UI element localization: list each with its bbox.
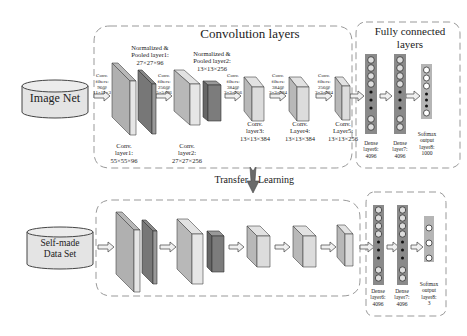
bottom-conv-layer4-block (293, 226, 316, 267)
transfer-label: Transfer (206, 174, 248, 186)
arrow-icon (321, 242, 336, 252)
image-net-label: Image Net (22, 92, 88, 106)
bottom-softmax-layer8-label: Softmaxoutputlayer8:3 (415, 281, 443, 306)
conv-layer2-block (174, 70, 200, 125)
conv-filter-label-4: Conv.filters:384@3×3×384 (266, 73, 290, 96)
conv-filter-label-1: Conv.filters:96@11×11×3 (90, 73, 114, 96)
conv-layer3-block (244, 77, 264, 121)
arrow-icon (275, 242, 290, 252)
bottom-dense-layer6-bar (373, 205, 384, 285)
softmax-layer8-label: Softmaxoutputlayer8:1000 (413, 131, 441, 156)
fc-title-line1: Fully connected (360, 25, 460, 38)
conv-filter-label-2: Conv.filters:256@5×5×96 (152, 73, 176, 96)
conv-layer1-block (112, 63, 136, 135)
conv-layer2-label: Conv.layer2:27×27×256 (164, 142, 210, 164)
bottom-dense-layer7-bar (397, 205, 408, 285)
bottom-pooled-layer1-block (142, 220, 157, 284)
conv-layer4-label: Conv.Layer4:13×13×384 (277, 120, 323, 142)
dense-layer6-label: Denselayer6:4096 (360, 140, 382, 159)
bottom-conv-layer1-block (116, 212, 140, 292)
arrow-icon (360, 242, 374, 252)
fc-section-title: Fully connected layers (360, 25, 460, 50)
arrow-icon (160, 242, 176, 252)
bottom-conv-layer2-block (177, 219, 203, 284)
pooled-layer2-block (203, 81, 221, 121)
conv-layer1-label: Conv.layer1:55×55×96 (102, 142, 146, 164)
bottom-softmax-layer8-bar (424, 216, 434, 262)
pooled-layer1-label: Normalized &Pooled layer1:27×27×96 (122, 44, 178, 66)
bottom-conv-layer3-block (247, 226, 270, 267)
arrow-icon (229, 242, 244, 252)
bottom-conv-layer5-block (337, 225, 353, 266)
conv-filter-label-5: Conv.filters:256@3×3×384 (312, 73, 336, 96)
conv-layer3-label: Conv.layer3:13×13×384 (232, 120, 278, 142)
conv-filter-label-3: Conv.filters:384@3×3×256 (221, 73, 245, 96)
dense-layer6-bar (365, 54, 377, 134)
conv-layer4-block (289, 77, 309, 121)
bottom-pooled-layer2-block (207, 231, 224, 272)
arrow-icon (406, 91, 420, 101)
arrow-icon (411, 242, 423, 252)
arrow-icon (98, 242, 114, 252)
bottom-dense-layer7-label: Denselayer7:4096 (391, 288, 413, 307)
softmax-layer8-bar (421, 64, 432, 119)
arrow-icon (380, 91, 392, 101)
dense-layer7-bar (394, 54, 406, 134)
bottom-dense-layer6-label: Denselayer6:4096 (367, 288, 389, 307)
fc-title-line2: layers (360, 38, 460, 51)
pooled-layer2-label: Normalized &Pooled layer2:13×13×256 (184, 50, 240, 72)
conv-layer5-block (335, 77, 350, 120)
self-made-dataset-label: Self-madeData Set (27, 238, 93, 260)
learning-label: Learning (258, 174, 306, 186)
conv-section-title: Convolution layers (180, 27, 320, 42)
dense-layer7-label: Denselayer7:4096 (389, 140, 411, 159)
